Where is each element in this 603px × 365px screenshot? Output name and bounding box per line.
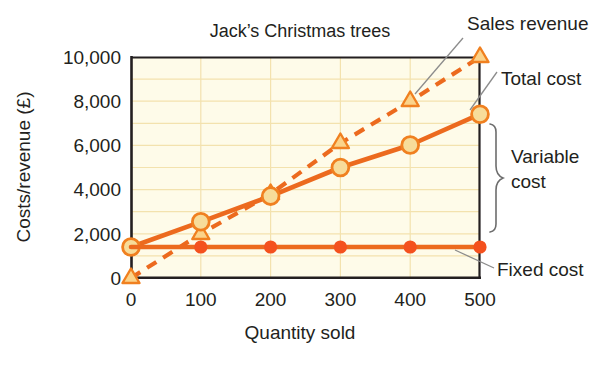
chart-title: Jack’s Christmas trees	[210, 21, 391, 41]
y-tick-label-6000: 6,000	[73, 135, 121, 156]
chart-figure: Jack’s Christmas trees 10,000 8,000 6,00…	[0, 0, 603, 365]
x-tick-label-500: 500	[464, 289, 496, 310]
x-tick-label-300: 300	[325, 289, 357, 310]
y-tick-label-4000: 4,000	[73, 179, 121, 200]
annotation-fixed-cost: Fixed cost	[497, 259, 584, 280]
x-tick-label-400: 400	[394, 289, 426, 310]
x-tick-label-100: 100	[185, 289, 217, 310]
annotation-variable-cost-line1: Variable	[511, 146, 579, 167]
annotation-sales-revenue: Sales revenue	[467, 13, 588, 34]
variable-cost-brace	[490, 124, 503, 232]
y-tick-label-8000: 8,000	[73, 91, 121, 112]
x-tick-label-0: 0	[126, 289, 137, 310]
x-tick-label-200: 200	[255, 289, 287, 310]
x-axis-title: Quantity sold	[245, 322, 356, 343]
annotation-variable-cost-line2: cost	[511, 171, 547, 192]
y-tick-label-0: 0	[110, 268, 121, 289]
y-tick-label-2000: 2,000	[73, 224, 121, 245]
y-tick-label-10000: 10,000	[63, 47, 121, 68]
chart-canvas: Jack’s Christmas trees 10,000 8,000 6,00…	[0, 0, 603, 365]
y-axis-title: Costs/revenue (£)	[13, 91, 34, 242]
annotation-total-cost: Total cost	[501, 68, 582, 89]
